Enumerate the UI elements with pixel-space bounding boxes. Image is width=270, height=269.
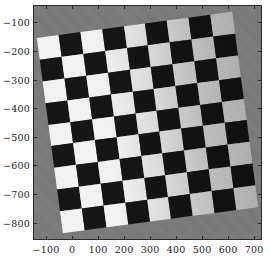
x-axis-tick [202, 236, 203, 240]
checker-square [70, 119, 95, 144]
checker-square [225, 120, 250, 145]
checker-square [73, 141, 98, 166]
checker-square [148, 42, 173, 67]
checker-square [216, 55, 241, 80]
checker-square [219, 77, 244, 102]
checker-square [160, 129, 185, 154]
checker-square [209, 167, 234, 192]
checker-square [163, 151, 188, 176]
checker-square [127, 45, 152, 70]
x-tick-label: 200 [115, 244, 134, 255]
x-axis-tick [124, 5, 125, 9]
x-axis-tick [72, 5, 73, 9]
checkerboard-target [37, 12, 258, 233]
checker-square [67, 97, 92, 122]
y-axis-tick [258, 22, 262, 23]
plot-area [33, 5, 262, 240]
x-axis-tick [72, 236, 73, 240]
checker-square [86, 73, 111, 98]
x-axis-tick [228, 236, 229, 240]
checker-square [102, 26, 127, 51]
checker-square [228, 142, 253, 167]
checker-square [157, 107, 182, 132]
checker-square [103, 203, 128, 228]
y-axis-tick [258, 108, 262, 109]
x-axis-tick [46, 5, 47, 9]
checker-square [95, 138, 120, 163]
x-tick-label: 300 [141, 244, 160, 255]
y-tick-label: −700 [30, 189, 57, 200]
y-tick-label: −800 [30, 217, 57, 228]
x-tick-label: 100 [89, 244, 108, 255]
checker-square [190, 191, 215, 216]
checker-square [213, 34, 238, 59]
checker-square [119, 156, 144, 181]
checker-square [105, 48, 130, 73]
y-axis-tick [258, 165, 262, 166]
checker-square [151, 64, 176, 89]
checker-square [212, 188, 237, 213]
checker-square [111, 91, 136, 116]
checker-square [145, 21, 170, 46]
checker-square [83, 51, 108, 76]
checker-square [135, 110, 160, 135]
y-tick-label: −300 [30, 74, 57, 85]
checker-square [184, 148, 209, 173]
checker-square [206, 145, 231, 170]
checker-square [64, 75, 89, 100]
checker-square [54, 165, 79, 190]
x-axis-tick [150, 236, 151, 240]
checker-square [60, 209, 85, 234]
checker-square [187, 170, 212, 195]
x-axis-tick [98, 236, 99, 240]
x-tick-label: 700 [245, 244, 264, 255]
checker-square [170, 39, 195, 64]
checker-square [124, 23, 149, 48]
checker-square [141, 154, 166, 179]
checker-square [154, 86, 179, 111]
checker-square [98, 159, 123, 184]
x-axis-tick [202, 5, 203, 9]
checker-square [234, 185, 259, 210]
checker-square [167, 18, 192, 43]
checker-square [197, 80, 222, 105]
checker-square [59, 32, 84, 57]
y-axis-tick [258, 51, 262, 52]
x-tick-label: 600 [219, 244, 238, 255]
y-axis-tick [258, 194, 262, 195]
y-axis-tick [258, 223, 262, 224]
y-tick-label: −200 [30, 45, 57, 56]
checker-square [203, 123, 228, 148]
figure-canvas: −1000100200300400500600700 −800−700−600−… [0, 0, 270, 269]
x-axis-tick [254, 236, 255, 240]
checker-square [129, 67, 154, 92]
checkerboard-grid [37, 12, 258, 233]
checker-square [189, 15, 214, 40]
x-axis-tick [176, 236, 177, 240]
checker-square [89, 94, 114, 119]
checker-square [192, 36, 217, 61]
x-axis-tick [228, 5, 229, 9]
checker-square [231, 164, 256, 189]
checker-square [147, 197, 172, 222]
checker-square [210, 12, 235, 37]
x-axis-tick [176, 5, 177, 9]
x-tick-label: 0 [69, 244, 75, 255]
y-axis-tick [258, 137, 262, 138]
checker-square [57, 187, 82, 212]
y-tick-label: −400 [30, 103, 57, 114]
checker-square [61, 54, 86, 79]
y-tick-label: −100 [30, 17, 57, 28]
checker-square [168, 194, 193, 219]
checker-square [138, 132, 163, 157]
x-axis-tick [124, 236, 125, 240]
checker-square [108, 70, 133, 95]
x-axis-tick [150, 5, 151, 9]
checker-square [194, 58, 219, 83]
checker-square [100, 181, 125, 206]
x-axis-tick [254, 5, 255, 9]
x-tick-label: 400 [167, 244, 186, 255]
y-axis-tick [258, 80, 262, 81]
checker-square [80, 29, 105, 54]
checker-square [113, 113, 138, 138]
